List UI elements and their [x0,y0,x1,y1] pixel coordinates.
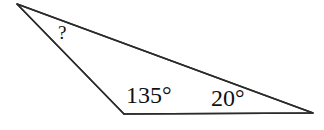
angle-label-right: 20° [211,86,245,110]
triangle-figure [0,0,324,130]
angle-label-bottom-left: 135° [126,83,172,107]
angle-label-unknown: ? [58,23,66,42]
geometry-diagram: ? 135° 20° [0,0,324,130]
edge-bottom-left-to-right [124,113,313,114]
